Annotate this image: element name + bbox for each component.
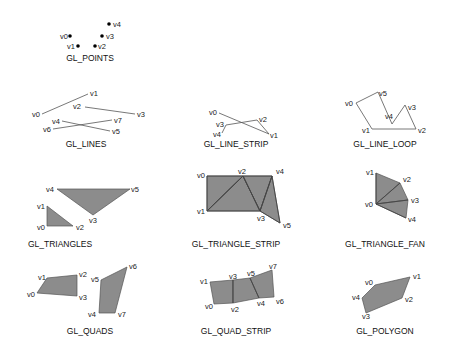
primitive-gl-triangle-fan: v0v1v2v3v4GL_TRIANGLE_FAN [345,168,425,249]
vertex-label: v2 [418,126,426,135]
vertex-label: v6 [276,297,284,306]
vertex-label: v1 [200,277,208,286]
primitive-gl-points: v0v1v2v3v4GL_POINTS [60,20,121,63]
vertex-label: v0 [209,108,217,117]
vertex-label: v0 [365,278,373,287]
point-marker [68,34,72,38]
primitive-gl-quads: v0v1v2v3v4v5v6v7GL_QUADS [27,262,137,336]
vertex-label: v3 [229,272,237,281]
vertex-label: v2 [403,175,411,184]
vertex-label: v6 [129,262,137,271]
primitive-gl-line-loop: v0v1v2v3v4v5GL_LINE_LOOP [345,89,426,149]
vertex-label: v2 [238,167,246,176]
vertex-label: v4 [257,299,265,308]
primitives-diagram: v0v1v2v3v4GL_POINTSv0v1v2v3v4v5v6v7GL_LI… [0,0,456,358]
vertex-label: v1 [270,131,278,140]
vertex-label: v0 [345,99,353,108]
primitive-title: GL_POLYGON [356,326,413,336]
primitive-title: GL_LINES [66,139,107,149]
point-marker [76,44,80,48]
primitive-title: GL_QUAD_STRIP [201,326,272,336]
triangle-shape [47,206,73,226]
vertex-label: v0 [60,32,68,41]
primitive-gl-polygon: v0v1v2v3v4GL_POLYGON [352,272,421,336]
vertex-label: v5 [283,221,291,230]
vertex-label: v0 [365,200,373,209]
vertex-label: v1 [362,126,370,135]
line-segment [53,120,112,129]
vertex-label: v7 [114,116,122,125]
primitive-title: GL_QUADS [67,326,114,336]
vertex-label: v5 [247,269,255,278]
vertex-label: v1 [38,273,46,282]
vertex-label: v2 [79,270,87,279]
vertex-label: v0 [27,290,35,299]
vertex-label: v3 [137,110,145,119]
vertex-label: v4 [213,130,221,139]
vertex-label: v6 [43,125,51,134]
vertex-label: v1 [67,42,75,51]
vertex-label: v3 [79,293,87,302]
vertex-label: v1 [197,207,205,216]
primitive-gl-triangle-strip: v0v1v2v3v4v5GL_TRIANGLE_STRIP [192,167,291,249]
primitive-gl-lines: v0v1v2v3v4v5v6v7GL_LINES [32,89,145,149]
vertex-label: v1 [90,89,98,98]
primitive-title: GL_LINE_LOOP [353,139,417,149]
primitive-gl-triangles: v0v1v2v3v4v5GL_TRIANGLES [28,185,139,249]
point-marker [93,44,97,48]
primitive-title: GL_LINE_STRIP [204,139,269,149]
triangle-shape [57,189,130,215]
vertex-label: v3 [257,214,265,223]
vertex-label: v2 [98,42,106,51]
point-marker [100,34,104,38]
vertex-label: v3 [362,312,370,321]
vertex-label: v5 [131,185,139,194]
primitive-gl-line-strip: v0v1v2v3v4GL_LINE_STRIP [204,108,278,149]
vertex-label: v3 [408,103,416,112]
vertex-label: v1 [366,168,374,177]
vertex-label: v5 [91,275,99,284]
vertex-label: v4 [408,215,416,224]
vertex-label: v2 [405,295,413,304]
quad-shape [99,267,127,313]
vertex-label: v3 [106,32,114,41]
line-segment [85,107,135,114]
vertex-label: v5 [112,127,120,136]
vertex-label: v3 [89,216,97,225]
line-segment [42,94,88,114]
vertex-label: v2 [76,223,84,232]
primitive-title: GL_POINTS [66,53,114,63]
primitive-gl-quad-strip: v0v1v2v3v4v5v6v7GL_QUAD_STRIP [200,262,284,336]
vertex-label: v4 [276,167,284,176]
vertex-label: v3 [411,196,419,205]
line-segment [62,121,110,131]
primitive-title: GL_TRIANGLE_FAN [345,239,425,249]
vertex-label: v0 [32,110,40,119]
primitive-title: GL_TRIANGLE_STRIP [192,239,281,249]
vertex-label: v7 [118,310,126,319]
vertex-label: v2 [259,115,267,124]
vertex-label: v4 [352,293,360,302]
primitive-title: GL_TRIANGLES [28,239,93,249]
vertex-label: v1 [37,202,45,211]
vertex-label: v4 [88,310,96,319]
vertex-label: v4 [385,112,393,121]
vertex-label: v4 [52,117,60,126]
vertex-label: v5 [379,89,387,98]
vertex-label: v1 [413,272,421,281]
point-marker [107,22,111,26]
vertex-label: v0 [205,302,213,311]
vertex-label: v2 [73,102,81,111]
vertex-label: v4 [113,20,121,29]
vertex-label: v0 [197,171,205,180]
vertex-label: v0 [37,223,45,232]
vertex-label: v3 [216,120,224,129]
vertex-label: v4 [46,185,54,194]
vertex-label: v2 [231,305,239,314]
vertex-label: v7 [269,262,277,271]
strip-quad [210,280,233,304]
